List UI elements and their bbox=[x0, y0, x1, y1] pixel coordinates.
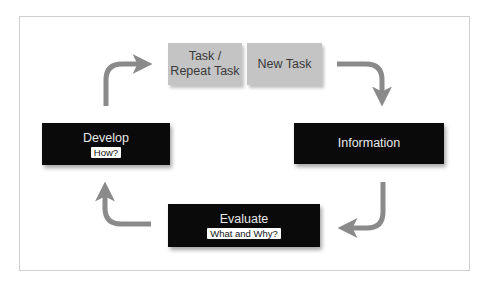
node-develop-label: Develop bbox=[83, 131, 129, 146]
arrow-evaluate-to-develop bbox=[105, 194, 151, 224]
node-develop-sublabel: How? bbox=[91, 147, 121, 158]
arrow-information-to-evaluate bbox=[350, 182, 383, 228]
node-evaluate: Evaluate What and Why? bbox=[168, 204, 320, 247]
node-task-line2: Repeat Task bbox=[170, 64, 239, 79]
node-information-label: Information bbox=[338, 136, 401, 151]
node-information: Information bbox=[294, 123, 444, 164]
node-evaluate-sublabel: What and Why? bbox=[207, 228, 281, 239]
node-develop: Develop How? bbox=[42, 123, 170, 165]
arrow-newtask-to-information bbox=[337, 64, 382, 94]
node-new-task-label: New Task bbox=[258, 57, 312, 72]
arrow-develop-to-task bbox=[106, 64, 140, 106]
node-new-task: New Task bbox=[247, 43, 322, 85]
node-task-repeat-task: Task / Repeat Task bbox=[168, 43, 242, 85]
node-task-line1: Task / bbox=[189, 49, 222, 64]
node-evaluate-label: Evaluate bbox=[220, 212, 269, 227]
